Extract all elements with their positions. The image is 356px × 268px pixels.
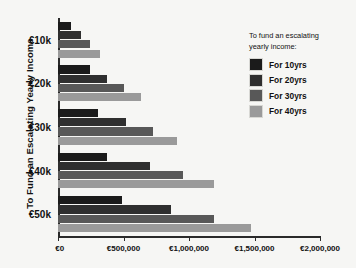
bar [58,65,90,73]
legend-items: For 10yrsFor 20yrsFor 30yrsFor 40yrs [249,58,353,118]
legend-swatch [249,105,263,118]
bar [58,50,100,58]
category-label: €10k [29,34,51,45]
legend-item-label: For 40yrs [269,106,307,116]
bar-group: €50k [58,192,320,236]
x-axis-tick-label: €500,000 [107,244,140,253]
bar [58,118,126,126]
legend-item-label: For 30yrs [269,91,307,101]
legend-item[interactable]: For 30yrs [249,89,353,102]
legend-swatch [249,58,263,71]
bar [58,84,124,92]
category-label: €40k [29,165,51,176]
bar [58,137,177,145]
x-axis-tick-label: €1,500,000 [234,244,274,253]
x-axis-tick-label: €0 [55,244,64,253]
x-axis-tick-label: €2,000,000 [300,244,340,253]
bar [58,22,71,30]
x-axis-tick-label: €1,000,000 [169,244,209,253]
legend-swatch [249,89,263,102]
bar [58,205,171,213]
x-axis-tick [320,236,321,241]
x-axis-tick [255,236,256,241]
bar [58,162,150,170]
x-axis-tick [124,236,125,241]
bar [58,40,90,48]
chart-root: To Fund an Escalating Yearly Income €0€5… [0,0,356,268]
bar [58,109,98,117]
legend: To fund an escalating yearly income: For… [249,31,353,120]
category-label: €30k [29,121,51,132]
x-axis-tick [189,236,190,241]
bar [58,93,141,101]
legend-item[interactable]: For 40yrs [249,105,353,118]
bar [58,127,153,135]
bar [58,31,81,39]
x-axis-tick [58,236,59,241]
legend-item[interactable]: For 10yrs [249,58,353,71]
legend-swatch [249,74,263,87]
legend-item-label: For 20yrs [269,75,307,85]
bar-group: €40k [58,149,320,193]
bar [58,171,183,179]
legend-title-line-1: To fund an escalating [249,31,353,42]
legend-item[interactable]: For 20yrs [249,74,353,87]
legend-title-line-2: yearly income: [249,42,353,53]
bar [58,75,107,83]
category-label: €20k [29,78,51,89]
legend-title: To fund an escalating yearly income: [249,31,353,52]
category-label: €50k [29,209,51,220]
bar [58,196,122,204]
bar [58,180,214,188]
bar [58,215,214,223]
legend-item-label: For 10yrs [269,60,307,70]
bar [58,153,107,161]
bar [58,224,251,232]
